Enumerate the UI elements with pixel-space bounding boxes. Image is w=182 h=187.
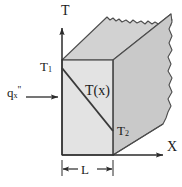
heat-flux-label: qx" [7,86,21,101]
heat-conduction-figure: T X T1 T2 T(x) qx" L [0,0,182,187]
thickness-label: L [81,163,89,176]
t1-label: T1 [40,60,52,75]
t2-label: T2 [117,124,129,139]
x-axis-label: X [167,140,177,154]
wall-front-face [62,60,113,155]
temperature-profile-label: T(x) [85,84,110,98]
t-axis-label: T [61,4,70,18]
